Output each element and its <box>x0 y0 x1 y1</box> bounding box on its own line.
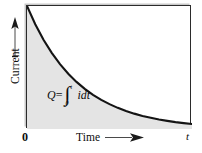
shaded-area-under-curve <box>27 6 192 129</box>
integral-formula: Q = t ∫ 0 idt <box>47 85 90 105</box>
discharge-curve-plot <box>27 6 192 129</box>
plot-area <box>26 5 191 128</box>
integral-sign: t ∫ 0 <box>63 85 74 105</box>
current-vs-time-figure: Current Q = t ∫ 0 idt 0 Time t <box>0 0 202 153</box>
x-axis-label: Time <box>76 131 100 143</box>
integral-upper-limit: t <box>70 84 72 90</box>
x-axis-label-group: Time <box>76 131 145 143</box>
integral-lower-limit: 0 <box>65 100 68 106</box>
x-axis-end-label: t <box>186 130 189 142</box>
formula-charge-symbol: Q <box>47 88 56 103</box>
formula-integrand: idt <box>77 88 90 103</box>
x-axis-origin-label: 0 <box>22 130 28 145</box>
formula-equals-sign: = <box>56 88 63 103</box>
y-axis-label: Current <box>9 35 21 97</box>
arrow-right-icon <box>105 132 145 143</box>
